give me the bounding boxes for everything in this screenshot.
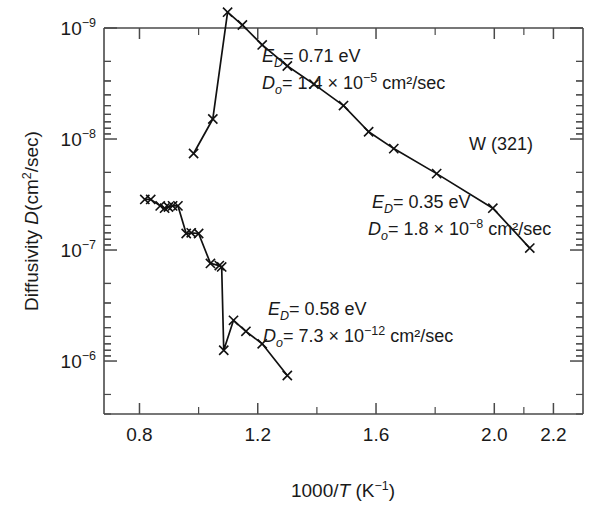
x-tick-label: 2.2 [540,424,566,445]
x-axis-title-unit-sup: −1 [374,479,388,493]
y-axis-title-tail: /sec) [21,131,42,172]
x-tick-label: 2.0 [481,424,507,445]
y-axis-title-rest: (cm [21,179,42,211]
y-axis-title-main: Diffusivity [21,225,42,311]
x-tick-label: 0.8 [126,424,152,445]
y-axis-title-d: D [21,211,42,225]
x-axis-title-pre: 1000/ [291,480,339,501]
x-axis-title-unit-tail: ) [389,480,395,501]
svg-text:Diffusivity D(cm2/sec): Diffusivity D(cm2/sec) [20,131,42,311]
y-axis-title-sup: 2 [20,172,34,179]
sample-label: W (321) [469,134,533,154]
x-tick-label: 1.6 [363,424,389,445]
arrhenius-diffusivity-chart: 10−910−810−710−6 0.81.21.62.02.2 Diffusi… [0,0,609,520]
x-tick-label: 1.2 [245,424,271,445]
y-axis-title: Diffusivity D(cm2/sec) [20,131,42,311]
x-axis-title-unit: (K [350,480,375,501]
